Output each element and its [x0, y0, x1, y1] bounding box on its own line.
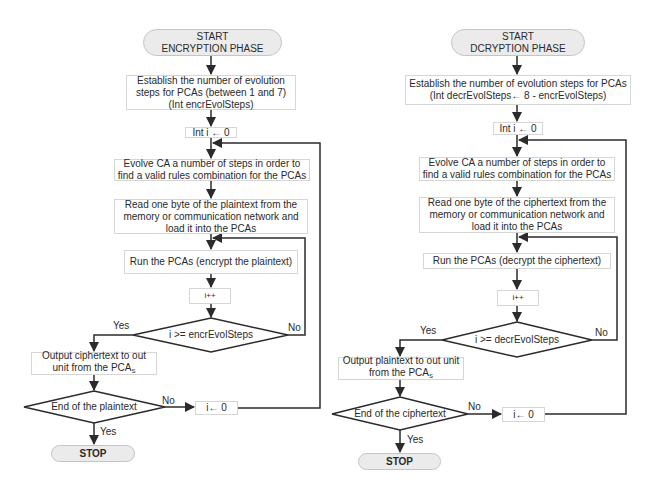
start-encryption-terminal: START ENCRYPTION PHASE: [143, 29, 282, 56]
end-condition-text: End of the ciphertext: [354, 408, 446, 420]
output-line-1: Output ciphertext to out: [42, 350, 146, 362]
read-byte-box: Read one byte of the ciphertext from the…: [419, 197, 615, 233]
run-pcas-box: Run the PCAs (decrypt the ciphertext): [423, 253, 611, 269]
output-line-1: Output plaintext to out unit: [343, 355, 460, 367]
output-ciphertext-box: Output ciphertext to out unit from the P…: [31, 352, 157, 375]
increment-box: i++: [189, 288, 231, 304]
establish-steps-box: Establish the number of evolution steps …: [405, 75, 631, 105]
run-pcas-box: Run the PCAs (encrypt the plaintext): [124, 250, 298, 274]
start-decryption-terminal: START DCRYPTION PHASE: [451, 29, 585, 56]
end-no-label: No: [162, 395, 175, 406]
output-line-2: from the PCAS: [369, 367, 433, 382]
init-i-box: Int i ← 0: [493, 122, 543, 135]
increment-box: i++: [497, 290, 539, 306]
evolve-ca-box: Evolve CA a number of steps in order to …: [419, 157, 615, 181]
loop-yes-label: Yes: [420, 325, 436, 336]
end-yes-label: Yes: [407, 434, 423, 445]
establish-steps-box: Establish the number of evolution steps …: [126, 75, 296, 110]
loop-no-label: No: [595, 327, 608, 338]
stop-encryption-terminal: STOP: [51, 445, 135, 462]
output-line-2: unit from the PCAS: [53, 362, 136, 377]
evolve-ca-box: Evolve CA a number of steps in order to …: [114, 159, 310, 181]
loop-yes-label: Yes: [113, 320, 129, 331]
loop-condition-text: i >= encrEvolSteps: [169, 329, 253, 341]
loop-condition-text: i >= decrEvolSteps: [475, 334, 559, 346]
output-plaintext-box: Output plaintext to out unit from the PC…: [338, 357, 464, 380]
stop-decryption-terminal: STOP: [358, 453, 441, 470]
end-condition-text: End of the plaintext: [51, 401, 137, 413]
end-no-label: No: [468, 401, 481, 412]
loop-no-label: No: [288, 322, 301, 333]
init-i-box: Int i ← 0: [185, 127, 237, 138]
reset-i-box: i← 0: [195, 401, 238, 415]
read-byte-box: Read one byte of the plaintext from the …: [114, 199, 308, 234]
reset-i-box: i← 0: [502, 407, 545, 422]
end-yes-label: Yes: [100, 426, 116, 437]
